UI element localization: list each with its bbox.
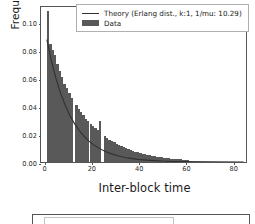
- x-tick-label: 80: [230, 165, 238, 173]
- histogram-axes: Frequency 0.000.020.040.060.080.10 02040…: [40, 6, 247, 163]
- chart-legend: Theory (Erlang dist., k:1, 1/mu: 10.29) …: [76, 4, 249, 32]
- legend-line-icon: [82, 13, 99, 14]
- x-tick-mark: [234, 162, 235, 165]
- x-axis-label: Inter-block time: [41, 181, 248, 195]
- x-tick-label: 20: [88, 165, 96, 173]
- x-tick-label: 60: [182, 165, 190, 173]
- x-tick-mark: [45, 162, 46, 165]
- legend-label-data: Data: [104, 19, 121, 28]
- legend-patch-icon: [82, 20, 99, 26]
- x-tick-label: 40: [135, 165, 143, 173]
- second-figure-legend-frame: [44, 217, 174, 224]
- legend-entry-data: Data: [82, 18, 243, 28]
- y-axis-label: Frequency: [9, 0, 21, 47]
- figure-container: Frequency 0.000.020.040.060.080.10 02040…: [0, 0, 255, 224]
- y-tick-mark: [39, 164, 42, 165]
- x-tick-mark: [139, 162, 140, 165]
- legend-label-theory: Theory (Erlang dist., k:1, 1/mu: 10.29): [104, 9, 242, 18]
- legend-entry-theory: Theory (Erlang dist., k:1, 1/mu: 10.29): [82, 8, 243, 18]
- x-tick-label: 0: [42, 165, 46, 173]
- x-tick-mark: [92, 162, 93, 165]
- x-tick-mark: [186, 162, 187, 165]
